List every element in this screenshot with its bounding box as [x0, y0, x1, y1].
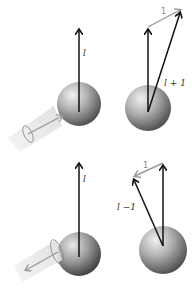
resultant-label: l −1 — [117, 202, 136, 212]
photon-label: 1 — [143, 161, 148, 170]
panel-top-right: 1 l + 1 — [125, 7, 186, 131]
panel-bottom-right: 1 l −1 — [117, 161, 187, 274]
outgoing-photon-beam — [14, 238, 66, 282]
panel-top-left: l — [8, 30, 101, 152]
l-label: l — [83, 174, 86, 184]
photon-label: 1 — [161, 7, 166, 16]
panel-bottom-left: l — [14, 164, 101, 282]
photon-vector — [135, 163, 163, 176]
l-label: l — [83, 48, 86, 58]
resultant-label: l + 1 — [164, 78, 186, 88]
angular-momentum-diagram: l 1 l + 1 l 1 l −1 — [0, 0, 194, 290]
incoming-photon-beam — [8, 106, 62, 152]
